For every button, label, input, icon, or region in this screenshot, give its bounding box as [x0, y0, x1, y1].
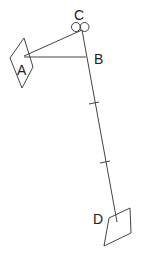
tick-mark-upper	[89, 102, 99, 104]
label-c: C	[74, 7, 84, 23]
tick-mark-lower	[100, 161, 110, 163]
pulley-c	[72, 23, 90, 32]
label-a: A	[17, 62, 27, 78]
rod-c-to-a	[24, 30, 82, 56]
label-b: B	[94, 51, 103, 67]
diagram-canvas: C A B D	[0, 0, 143, 258]
pulley-left-circle	[72, 23, 81, 32]
plate-d	[104, 208, 131, 246]
label-d: D	[93, 211, 103, 227]
